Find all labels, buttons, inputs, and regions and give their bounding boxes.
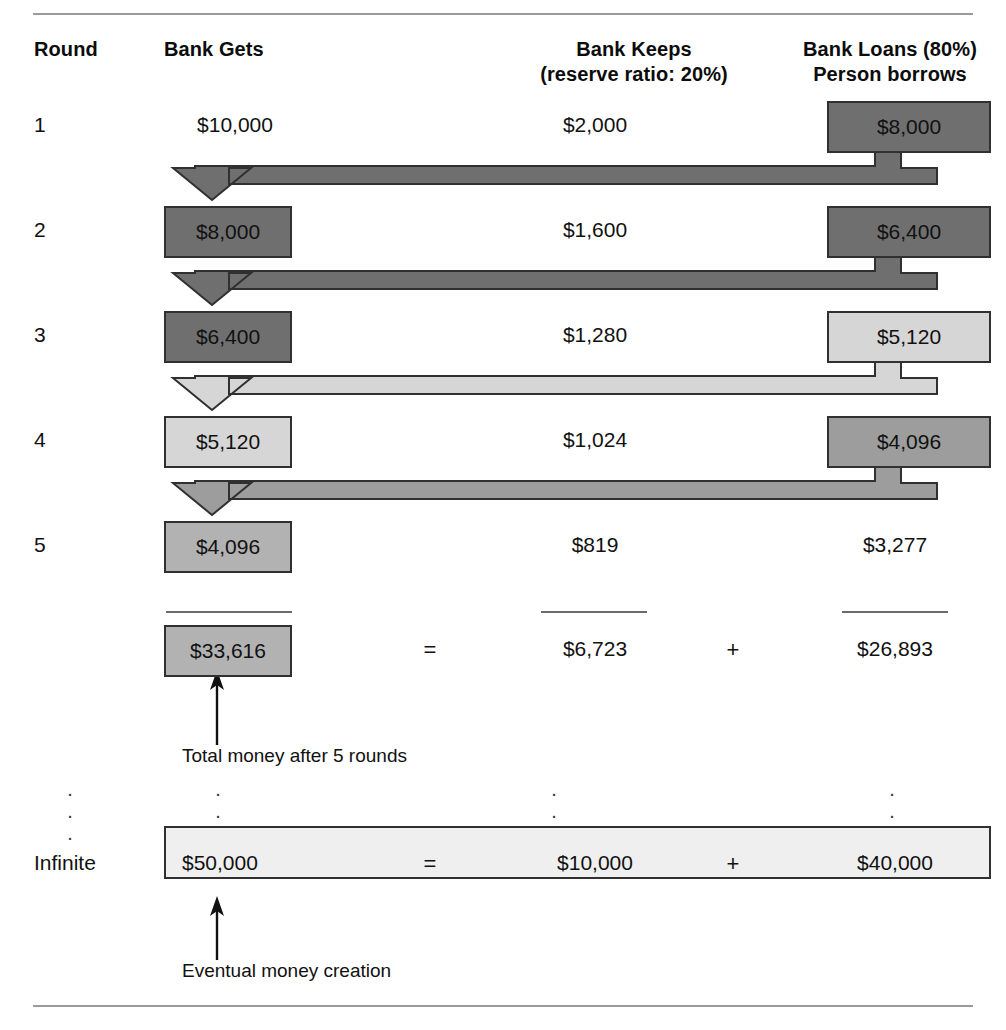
- bank-keeps-row-5: $819: [505, 533, 685, 557]
- flow-arrow-round-4-to-5: [173, 463, 937, 515]
- round-number-2: 2: [34, 218, 104, 242]
- bank-loans-box-row-3: $5,120: [827, 311, 991, 363]
- flow-arrow-round-2-to-3: [173, 253, 937, 305]
- subtotal-rule-bank-keeps: [541, 611, 647, 613]
- flow-arrow-round-1-to-2: [173, 148, 937, 200]
- header-bank-keeps: Bank Keeps (reserve ratio: 20%): [493, 37, 775, 87]
- bank-gets-box-row-2: $8,000: [164, 206, 292, 258]
- ellipsis-round-column: . . .: [63, 778, 77, 844]
- ellipsis-dot: .: [63, 778, 77, 800]
- header-bank-keeps-line1: Bank Keeps: [493, 37, 775, 62]
- header-bank-loans: Bank Loans (80%) Person borrows: [775, 37, 1005, 87]
- header-bank-keeps-line2: (reserve ratio: 20%): [493, 62, 775, 87]
- ellipsis-dot: .: [211, 800, 225, 822]
- bank-gets-box-row-4: $5,120: [164, 416, 292, 468]
- subtotal-bank-loans: $26,893: [800, 637, 990, 661]
- subtotal-equals-sign: =: [415, 637, 445, 663]
- ellipsis-dot: .: [63, 822, 77, 844]
- infinite-bank-keeps: $10,000: [505, 851, 685, 875]
- infinite-equals-sign: =: [415, 851, 445, 877]
- bank-loans-row-5: $3,277: [800, 533, 990, 557]
- header-bank-loans-line2: Person borrows: [775, 62, 1005, 87]
- round-number-4: 4: [34, 428, 104, 452]
- money-multiplier-figure: Round Bank Gets Bank Keeps (reserve rati…: [0, 0, 1006, 1030]
- round-number-infinite: Infinite: [34, 851, 104, 875]
- bank-keeps-row-4: $1,024: [505, 428, 685, 452]
- infinite-callout-arrow: [210, 896, 224, 960]
- ellipsis-dot: .: [63, 800, 77, 822]
- subtotal-box-bank-gets: $33,616: [164, 625, 292, 677]
- top-divider-rule: [33, 13, 973, 15]
- subtotal-bank-keeps: $6,723: [505, 637, 685, 661]
- bank-loans-box-row-1: $8,000: [827, 101, 991, 153]
- flow-arrow-round-3-to-4: [173, 358, 937, 410]
- round-number-5: 5: [34, 533, 104, 557]
- infinite-plus-sign: +: [718, 851, 748, 877]
- infinite-bank-gets: $50,000: [182, 851, 258, 875]
- subtotal-note-label: Total money after 5 rounds: [182, 745, 407, 767]
- ellipsis-dot: .: [885, 800, 899, 822]
- bank-gets-box-row-5: $4,096: [164, 521, 292, 573]
- bank-keeps-row-1: $2,000: [505, 113, 685, 137]
- subtotal-plus-sign: +: [718, 637, 748, 663]
- ellipsis-dot: .: [547, 800, 561, 822]
- header-bank-loans-line1: Bank Loans (80%): [775, 37, 1005, 62]
- infinite-bank-loans: $40,000: [800, 851, 990, 875]
- bank-gets-row-1: $10,000: [140, 113, 330, 137]
- bank-keeps-row-3: $1,280: [505, 323, 685, 347]
- header-bank-gets: Bank Gets: [164, 37, 264, 62]
- subtotal-rule-bank-gets: [166, 611, 292, 613]
- round-number-1: 1: [34, 113, 104, 137]
- bank-keeps-row-2: $1,600: [505, 218, 685, 242]
- header-round: Round: [34, 37, 98, 62]
- infinite-note-label: Eventual money creation: [182, 960, 391, 982]
- ellipsis-dot: .: [547, 778, 561, 800]
- ellipsis-dot: .: [211, 778, 225, 800]
- subtotal-callout-arrow: [210, 670, 224, 745]
- subtotal-rule-bank-loans: [842, 611, 948, 613]
- bank-loans-box-row-4: $4,096: [827, 416, 991, 468]
- bank-gets-box-row-3: $6,400: [164, 311, 292, 363]
- bottom-divider-rule: [33, 1005, 973, 1007]
- bank-loans-box-row-2: $6,400: [827, 206, 991, 258]
- ellipsis-dot: .: [885, 778, 899, 800]
- round-number-3: 3: [34, 323, 104, 347]
